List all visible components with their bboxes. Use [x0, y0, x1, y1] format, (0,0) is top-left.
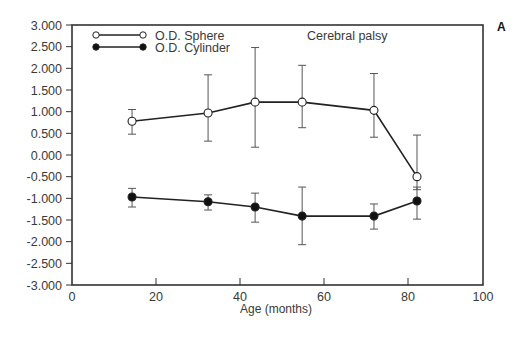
y-tick-label: 1.500 [31, 84, 62, 98]
legend: O.D. SphereO.D. Cylinder [93, 29, 230, 55]
y-tick-label: -1.500 [27, 214, 62, 228]
y-tick-label: 2.500 [31, 40, 62, 54]
y-tick-label: -2.500 [27, 257, 62, 271]
y-tick-label: 0.500 [31, 127, 62, 141]
x-axis: 020406080100 [69, 278, 494, 304]
data-point [204, 109, 212, 117]
y-tick-label: 2.000 [31, 62, 62, 76]
y-axis: 3.0002.5002.0001.5001.0000.5000.000-0.50… [27, 19, 72, 293]
data-point [413, 173, 421, 181]
line-chart: 3.0002.5002.0001.5001.0000.5000.000-0.50… [0, 0, 522, 339]
x-tick-label: 20 [149, 290, 163, 304]
legend-marker [93, 32, 99, 38]
data-point [298, 212, 306, 220]
legend-marker [140, 32, 146, 38]
x-tick-label: 0 [69, 290, 76, 304]
series-cylinder [128, 187, 421, 245]
data-point [128, 193, 136, 201]
data-point [298, 98, 306, 106]
series-sphere [128, 48, 421, 190]
y-tick-label: 1.000 [31, 105, 62, 119]
data-point [370, 212, 378, 220]
y-tick-label: -2.000 [27, 235, 62, 249]
x-tick-label: 60 [317, 290, 331, 304]
y-tick-label: -1.000 [27, 192, 62, 206]
data-point [128, 117, 136, 125]
series-layer [128, 48, 421, 245]
data-point [251, 98, 259, 106]
legend-marker [140, 44, 146, 50]
y-tick-label: -3.000 [27, 279, 62, 293]
data-point [413, 197, 421, 205]
panel-label: A [497, 20, 506, 34]
legend-label: O.D. Cylinder [155, 41, 230, 55]
x-tick-label: 100 [473, 290, 494, 304]
legend-marker [93, 44, 99, 50]
plot-border [72, 25, 483, 285]
y-tick-label: 0.000 [31, 149, 62, 163]
data-point [370, 106, 378, 114]
data-point [251, 203, 259, 211]
data-point [204, 198, 212, 206]
plot-frame [72, 25, 483, 285]
y-tick-label: 3.000 [31, 19, 62, 33]
x-tick-label: 80 [401, 290, 415, 304]
y-tick-label: -0.500 [27, 170, 62, 184]
x-axis-label: Age (months) [240, 302, 312, 316]
chart-title: Cerebral palsy [307, 29, 388, 43]
